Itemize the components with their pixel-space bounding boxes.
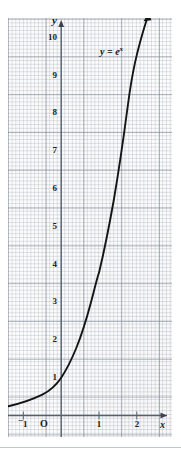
- x-tick-label-1: 1: [89, 419, 109, 429]
- y-tick-label-4: 4: [31, 259, 57, 269]
- plot-svg: [0, 0, 181, 459]
- y-tick-label-1: 1: [31, 372, 57, 382]
- y-tick-label-9: 9: [31, 70, 57, 80]
- page-margin-top: [0, 0, 181, 18]
- figure-container: y x 1 2 3 4 5 6 7 8 9 10 ¯1 O 1 2 y = ex: [0, 0, 181, 459]
- y-tick-label-5: 5: [31, 221, 57, 231]
- origin-label: O: [34, 418, 54, 429]
- curve-equation-base: y = e: [100, 46, 120, 57]
- y-tick-label-8: 8: [31, 107, 57, 117]
- y-tick-label-2: 2: [31, 334, 57, 344]
- y-tick-label-7: 7: [31, 145, 57, 155]
- y-tick-label-6: 6: [31, 183, 57, 193]
- y-tick-label-3: 3: [31, 296, 57, 306]
- y-axis-arrowhead: [58, 20, 64, 27]
- curve-equation-label: y = ex: [100, 45, 123, 57]
- page-margin-bottom: [0, 437, 181, 459]
- exponential-curve: [8, 18, 147, 406]
- curve-equation-exponent: x: [120, 45, 124, 53]
- x-axis-arrowhead: [161, 413, 168, 419]
- y-tick-label-10: 10: [31, 32, 57, 42]
- x-axis-label: x: [160, 419, 165, 430]
- x-tick-label-2: 2: [127, 419, 147, 429]
- x-tick-label-minus1: ¯1: [13, 419, 33, 429]
- page-rule-line: [0, 447, 181, 448]
- page-margin-left: [0, 0, 8, 459]
- page-margin-right: [172, 0, 181, 459]
